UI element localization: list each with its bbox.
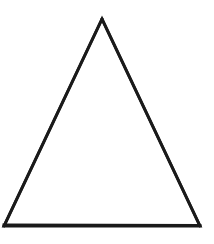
triangle-figure-svg: [0, 0, 214, 244]
triangle-base-edge-overlay: [4, 225, 200, 226]
drawing-canvas: triangle: [0, 0, 214, 244]
